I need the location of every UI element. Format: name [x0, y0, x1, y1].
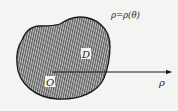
- curve-equation-label: ρ=ρ(θ): [110, 10, 140, 20]
- region-d: [17, 17, 110, 99]
- axis-label: ρ: [158, 77, 165, 88]
- polar-region-diagram: D O ρ=ρ(θ) ρ: [0, 0, 178, 111]
- region-label: D: [81, 49, 90, 60]
- origin-label: O: [46, 77, 54, 88]
